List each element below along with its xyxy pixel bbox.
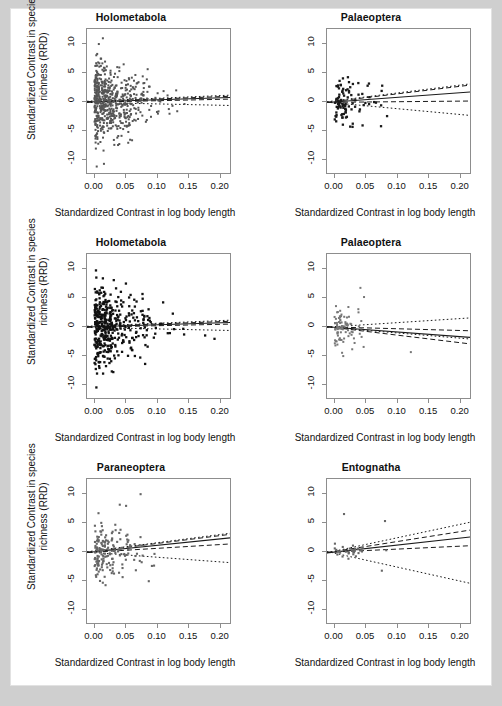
data-point	[141, 102, 143, 104]
y-axis-label: Standardized Contrast in speciesrichness…	[26, 0, 49, 142]
data-point	[143, 336, 145, 338]
scatter-points	[93, 269, 215, 388]
data-point	[340, 314, 342, 316]
y-tick-label: -5	[305, 568, 316, 590]
data-point	[113, 144, 115, 146]
data-point	[124, 93, 126, 95]
data-point	[104, 576, 106, 578]
x-tick-mark	[397, 174, 398, 178]
x-tick-label: 0.15	[174, 180, 202, 191]
data-point	[110, 329, 112, 331]
data-point	[100, 522, 102, 524]
data-point	[96, 330, 98, 332]
data-point	[102, 560, 104, 562]
data-point	[103, 163, 105, 165]
data-point	[141, 293, 143, 295]
data-point	[150, 321, 152, 323]
data-point	[99, 327, 101, 329]
y-tick-label: -5	[65, 118, 76, 140]
data-point	[100, 549, 102, 551]
data-point	[101, 314, 103, 316]
data-point	[117, 338, 119, 340]
data-point	[127, 549, 129, 551]
data-point	[125, 315, 127, 317]
data-point	[94, 65, 96, 67]
data-point	[102, 37, 104, 39]
data-point	[136, 82, 138, 84]
data-point	[338, 80, 340, 82]
data-point	[109, 338, 111, 340]
y-tick-label: 10	[305, 255, 316, 277]
data-point	[125, 121, 127, 123]
data-point	[167, 94, 169, 96]
data-point	[100, 553, 102, 555]
data-point	[130, 114, 132, 116]
data-point	[130, 99, 132, 101]
data-point	[104, 312, 106, 314]
data-point	[95, 129, 97, 131]
data-point	[136, 94, 138, 96]
data-point	[105, 365, 107, 367]
x-tick-label: 0.20	[206, 405, 234, 416]
data-point	[342, 88, 344, 90]
y-tick-label: -10	[65, 372, 76, 394]
data-point	[96, 100, 98, 102]
data-point	[120, 291, 122, 293]
data-point	[122, 576, 124, 578]
data-point	[103, 291, 105, 293]
data-point	[128, 340, 130, 342]
data-point	[341, 113, 343, 115]
data-point	[103, 122, 105, 124]
data-point	[128, 124, 130, 126]
data-point	[127, 552, 129, 554]
data-point	[98, 83, 100, 85]
data-point	[125, 559, 127, 561]
data-point	[107, 330, 109, 332]
data-point	[101, 81, 103, 83]
x-tick-mark	[365, 624, 366, 628]
data-point	[151, 565, 153, 567]
y-tick-label: -5	[65, 568, 76, 590]
data-point	[95, 62, 97, 64]
data-point	[128, 312, 130, 314]
x-tick-mark	[94, 174, 95, 178]
data-point	[94, 309, 96, 311]
data-point	[350, 108, 352, 110]
data-point	[114, 524, 116, 526]
data-point	[120, 103, 122, 105]
x-tick-mark	[188, 174, 189, 178]
data-point	[103, 337, 105, 339]
data-point	[100, 534, 102, 536]
data-point	[133, 119, 135, 121]
data-point	[128, 327, 130, 329]
y-tick-label: 10	[305, 30, 316, 52]
data-point	[97, 113, 99, 115]
data-point	[94, 106, 96, 108]
x-tick-label: 0.05	[111, 405, 139, 416]
data-point	[116, 305, 118, 307]
data-point	[129, 116, 131, 118]
data-point	[96, 65, 98, 67]
data-point	[117, 332, 119, 334]
data-point	[135, 336, 137, 338]
data-point	[100, 117, 102, 119]
data-point	[345, 116, 347, 118]
chart-panel-3: PalaeopteraStandardized Contrast in log …	[251, 234, 491, 459]
panel-grid: HolometabolaStandardized Contrast in spe…	[11, 9, 491, 685]
data-point	[110, 70, 112, 72]
data-point	[124, 79, 126, 81]
data-point	[148, 109, 150, 111]
data-point	[342, 77, 344, 79]
data-point	[169, 113, 171, 115]
data-point	[125, 89, 127, 91]
data-point	[342, 124, 344, 126]
data-point	[114, 326, 116, 328]
data-point	[110, 128, 112, 130]
data-point	[105, 319, 107, 321]
x-tick-mark	[125, 399, 126, 403]
data-point	[98, 316, 100, 318]
data-point	[131, 309, 133, 311]
data-point	[142, 82, 144, 84]
data-point	[344, 104, 346, 106]
data-point	[124, 328, 126, 330]
